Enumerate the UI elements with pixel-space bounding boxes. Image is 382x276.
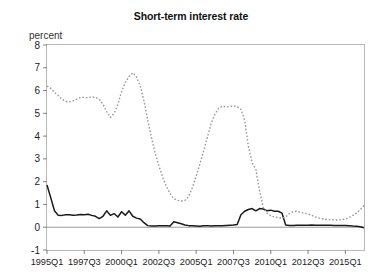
y-tick-label: 8 [34,40,40,51]
x-tick-label: 2012Q3 [292,257,325,267]
x-axis-ticks: 1995Q11997Q32000Q12002Q32005Q12007Q32010… [31,250,362,267]
plot-frame [47,45,365,251]
x-tick-label: 2005Q1 [180,257,213,267]
plot-area: 876543210-1 1995Q11997Q32000Q12002Q32005… [0,0,382,276]
y-tick-label: -1 [31,245,40,256]
y-axis-ticks: 876543210-1 [31,40,47,256]
x-tick-label: 1995Q1 [31,257,64,267]
y-tick-label: 4 [34,131,40,142]
x-tick-label: 2000Q1 [105,257,138,267]
x-tick-label: 2010Q1 [254,257,287,267]
x-tick-label: 2002Q3 [143,257,176,267]
chart-figure: Short-term interest rate percent 8765432… [0,0,382,276]
y-tick-label: 3 [34,153,40,164]
x-tick-label: 2007Q3 [217,257,250,267]
y-tick-label: 6 [34,85,40,96]
y-tick-label: 5 [34,108,40,119]
plot-border [47,45,365,251]
x-tick-label: 1997Q3 [68,257,101,267]
y-tick-label: 1 [34,199,40,210]
y-tick-label: 2 [34,176,40,187]
y-tick-label: 7 [34,62,40,73]
x-tick-label: 2015Q1 [329,257,362,267]
y-tick-label: 0 [34,222,40,233]
